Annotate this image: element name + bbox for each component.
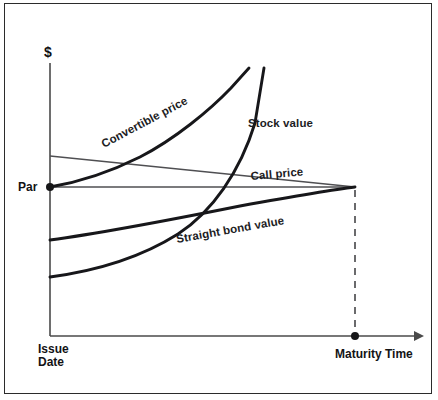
issue-date-label-line2: Date (38, 355, 64, 369)
stock-value-curve (50, 68, 264, 277)
convertible-price-curve (50, 68, 249, 187)
convertible-price-label: Convertible price (99, 94, 189, 150)
par-point-marker (46, 183, 54, 191)
par-label: Par (18, 180, 38, 194)
stock-value-label: Stock value (248, 117, 313, 129)
issue-date-label-line1: Issue (38, 342, 69, 356)
straight-bond-value-label: Straight bond value (175, 214, 285, 245)
y-axis-label: $ (44, 44, 52, 60)
x-axis-arrow-icon (414, 331, 424, 341)
maturity-point-marker (351, 332, 359, 340)
call-price-label: Call price (250, 165, 304, 182)
convertible-bond-chart: $ Par Issue Date Maturity Time Convertib… (0, 0, 438, 400)
call-price-curve (50, 156, 355, 187)
figure-page: $ Par Issue Date Maturity Time Convertib… (0, 0, 438, 400)
maturity-time-label: Maturity Time (335, 347, 413, 361)
